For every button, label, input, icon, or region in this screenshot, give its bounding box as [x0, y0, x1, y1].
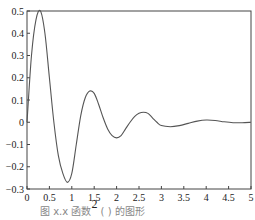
y-tick-label: −0.2: [6, 161, 24, 172]
x-tick-label: 3: [159, 192, 164, 203]
axis-tick-labels: 00.511.522.533.544.550.50.40.30.20.10−0.…: [6, 6, 254, 204]
y-tick-label: 0.5: [12, 6, 25, 17]
figure-caption: 图 x.x 函数2 ( ) 的图形: [40, 203, 240, 219]
x-tick-label: 5: [249, 192, 254, 203]
y-tick-label: 0.2: [12, 72, 25, 83]
y-tick-label: 0.4: [12, 28, 25, 39]
x-tick-label: 4: [204, 192, 209, 203]
caption-suffix: ( ) 的图形: [97, 206, 144, 217]
y-tick-label: 0.1: [12, 95, 25, 106]
line-chart: 00.511.522.533.544.550.50.40.30.20.10−0.…: [0, 0, 255, 220]
x-tick-label: 3.5: [178, 192, 191, 203]
y-tick-label: −0.3: [6, 184, 24, 195]
x-tick-label: 0.5: [43, 192, 56, 203]
x-tick-label: 0: [25, 192, 30, 203]
y-tick-label: −0.1: [6, 139, 24, 150]
caption-prefix: 图 x.x 函数: [40, 206, 91, 217]
axis-ticks: [27, 11, 251, 189]
x-tick-label: 1: [69, 192, 74, 203]
caption-superscript: 2: [91, 197, 97, 211]
y-tick-label: 0.3: [12, 50, 25, 61]
x-tick-label: 4.5: [222, 192, 235, 203]
series-line: [27, 10, 251, 182]
plot-frame: [27, 11, 251, 189]
x-tick-label: 2.5: [133, 192, 146, 203]
y-tick-label: 0: [19, 117, 24, 128]
x-tick-label: 2: [114, 192, 119, 203]
